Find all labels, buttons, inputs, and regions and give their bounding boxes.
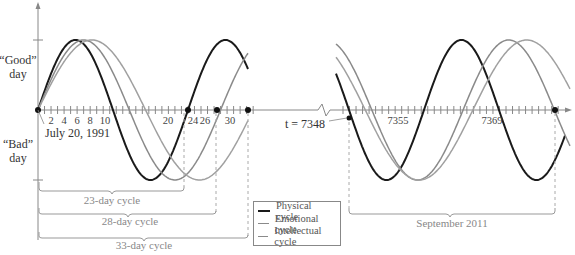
tick-label: 8 [87,115,92,126]
tick-label: 4 [61,115,67,126]
bracket-label-33: 33-day cycle [116,239,173,251]
bad-day-label-1: “Bad” [3,137,33,151]
emotional-swatch-icon [258,223,269,224]
legend: Physical cycle Emotional cycle Intellect… [253,201,341,246]
physical-swatch-icon [258,210,270,212]
tick-label: 30 [225,115,236,126]
intellectual-swatch-icon [258,236,268,237]
start-leader [38,110,44,124]
bracket-label-28: 28-day cycle [102,215,159,227]
start-date-label: July 20, 1991 [45,126,110,140]
bracket-label-23: 23-day cycle [84,194,141,206]
month-label: September 2011 [416,217,487,229]
tick-label: 7355 [388,115,409,126]
good-day-label-1: “Good” [0,53,37,67]
dashed-guides [184,113,555,236]
tick-label: 20 [163,115,174,126]
tick-label: 7369 [482,115,503,126]
t-marker-label: t = 7348 [285,117,325,131]
legend-label: Intellectual cycle [274,225,336,247]
tick-label: 24 [188,115,199,126]
bad-day-label-2: day [9,151,26,165]
tick-label: 6 [74,115,79,126]
tick-label: 2 [48,115,53,126]
t-marker-leader [329,118,347,121]
x-axis-right [343,106,572,114]
tick-label: 26 [200,115,211,126]
tick-label: 10 [100,115,111,126]
y-axis [33,2,43,240]
good-day-label-2: day [9,67,26,81]
legend-item-intellectual: Intellectual cycle [258,230,336,243]
